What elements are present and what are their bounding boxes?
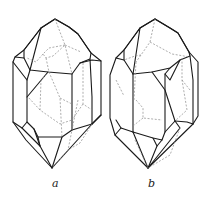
figure-label-b: b bbox=[148, 178, 155, 189]
crystal-drawing bbox=[0, 0, 204, 197]
crystal-a bbox=[13, 19, 101, 168]
crystal-b bbox=[110, 19, 198, 168]
figure-label-a: a bbox=[52, 178, 59, 189]
